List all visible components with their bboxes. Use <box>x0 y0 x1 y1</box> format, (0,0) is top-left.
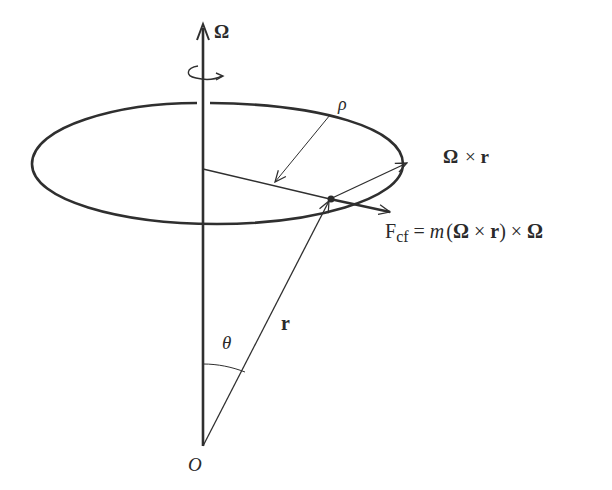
rho-dimension-arrow <box>275 115 330 182</box>
orbit-ellipse <box>32 103 403 224</box>
omega-axis-label: Ω <box>214 21 229 42</box>
point-mass <box>328 196 335 203</box>
rotation-indicator-icon <box>188 66 223 80</box>
position-vector-label: r <box>281 312 290 334</box>
rho-label: ρ <box>337 94 347 114</box>
rho-line <box>203 169 330 199</box>
origin-label: O <box>188 454 202 475</box>
position-vector-r <box>203 201 329 446</box>
theta-label: θ <box>222 332 231 353</box>
theta-arc <box>203 364 245 372</box>
centrifugal-force-label: Fcf = m(Ω × r) × Ω <box>385 220 543 245</box>
rotation-diagram: Ω ρ Ω × r Fcf = m(Ω × r) × Ω r θ O <box>0 0 612 490</box>
omega-cross-r-label: Ω × r <box>443 146 489 167</box>
